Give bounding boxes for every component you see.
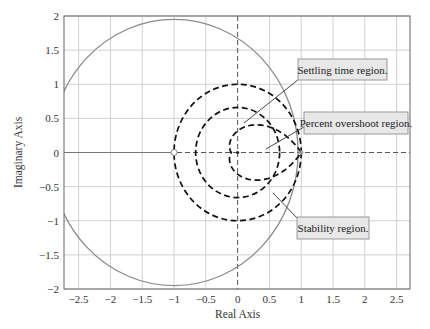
x-tick-label: 2: [362, 293, 368, 305]
x-tick-label: 0.5: [263, 293, 277, 305]
y-axis-ticks: 21.510.50−0.5−1−1.5−2: [39, 10, 59, 295]
origin-dot: [236, 151, 239, 154]
y-tick-label: −1: [47, 215, 59, 227]
x-axis-label: Real Axis: [215, 308, 261, 320]
x-tick-label: 0: [235, 293, 241, 305]
x-tick-label: −0.5: [196, 293, 216, 305]
dot-marker: [299, 150, 303, 154]
y-tick-label: −2: [47, 283, 59, 295]
y-tick-label: 0.5: [45, 112, 59, 124]
open-circle-marker: [171, 150, 177, 156]
x-tick-label: 1.5: [326, 293, 340, 305]
y-tick-label: −1.5: [39, 249, 59, 261]
x-tick-label: −1.5: [132, 293, 152, 305]
annotation-text: Stability region.: [298, 222, 369, 234]
x-tick-label: 1: [298, 293, 304, 305]
y-axis-label: Imaginary Axis: [12, 116, 25, 188]
x-tick-label: −1: [168, 293, 180, 305]
y-tick-label: −0.5: [39, 181, 59, 193]
y-tick-label: 2: [54, 10, 60, 22]
x-tick-label: −2.5: [69, 293, 89, 305]
root-locus-chart: −2.5−2−1.5−1−0.500.511.522.5 21.510.50−0…: [0, 0, 430, 329]
annotation-text: Percent overshoot region.: [300, 117, 413, 129]
y-tick-label: 1: [54, 78, 60, 90]
x-axis-ticks: −2.5−2−1.5−1−0.500.511.522.5: [69, 293, 404, 305]
x-tick-label: 2.5: [390, 293, 404, 305]
y-tick-label: 0: [54, 147, 60, 159]
y-tick-label: 1.5: [45, 44, 59, 56]
annotation-text: Settling time region.: [297, 64, 387, 76]
plot-series: [50, 16, 410, 289]
x-tick-label: −2: [105, 293, 117, 305]
